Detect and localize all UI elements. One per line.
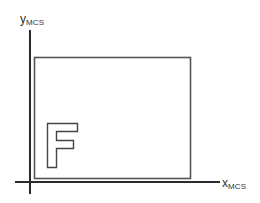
- y-axis-label: yMCS: [20, 13, 44, 29]
- y-axis-label-sub: MCS: [26, 18, 44, 27]
- diagram-canvas: [0, 0, 260, 203]
- frame-rectangle: [35, 58, 191, 179]
- x-axis-label: xMCS: [222, 177, 246, 193]
- letter-f-outline: [48, 124, 78, 168]
- x-axis-label-sub: MCS: [228, 182, 246, 191]
